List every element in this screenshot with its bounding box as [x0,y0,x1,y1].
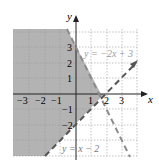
inequality-graph: y x −3 −2 −1 1 2 3 3 2 1 −1 −2 y = −2x +… [0,0,159,165]
x-tick--3: −3 [17,95,28,106]
line1-label: y = −2x + 3 [83,48,133,59]
line2-label: y = x − 2 [61,143,99,154]
y-axis-arrow-icon [73,15,79,22]
y-tick-2: 2 [67,58,72,69]
y-tick--2: −2 [62,120,73,131]
y-tick-1: 1 [67,73,72,84]
x-axis-arrow-icon [141,91,148,97]
x-tick--2: −2 [35,95,46,106]
y-tick--1: −1 [62,104,73,115]
x-tick-2: 2 [104,95,109,106]
x-tick--1: −1 [51,95,62,106]
y-axis-label: y [66,10,72,22]
x-tick-1: 1 [88,95,93,106]
y-tick-3: 3 [67,42,72,53]
x-axis-label: x [147,93,153,105]
x-tick-3: 3 [119,95,124,106]
